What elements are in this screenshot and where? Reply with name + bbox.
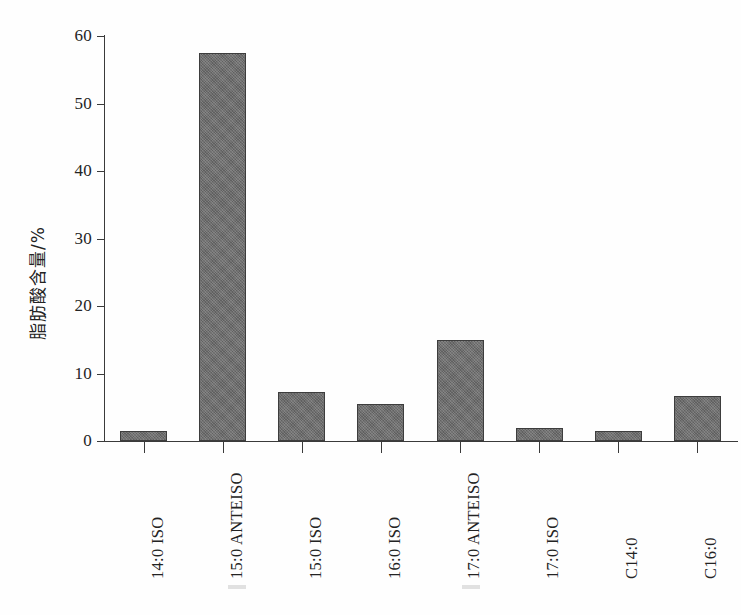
y-axis-tick-mark <box>97 239 105 240</box>
x-axis-category-label: 15:0 ANTEISO <box>229 472 246 579</box>
x-axis-tick-mark <box>460 442 461 453</box>
bar <box>278 392 325 441</box>
x-axis-category-label: 17:0 ISO <box>545 517 562 579</box>
fatty-acid-bar-chart-figure: 脂肪酸含量/% 0102030405060 14:0 ISO15:0 ANTEI… <box>0 0 741 615</box>
x-axis-line <box>104 441 738 442</box>
x-axis-category-label: C14:0 <box>624 537 641 579</box>
bar <box>199 53 246 441</box>
x-axis-category-label: 15:0 ISO <box>308 517 325 579</box>
bar <box>437 340 484 441</box>
scan-artifact <box>462 585 480 589</box>
y-axis-tick-mark <box>97 374 105 375</box>
bar <box>357 404 404 441</box>
y-axis-tick-mark <box>97 171 105 172</box>
y-axis-tick-label: 50 <box>52 95 92 112</box>
y-axis-tick-mark <box>97 306 105 307</box>
x-axis-category-label: 17:0 ANTEISO <box>466 472 483 579</box>
bar <box>674 396 721 441</box>
y-axis-tick-label: 10 <box>52 365 92 382</box>
y-axis-tick-label: 0 <box>52 432 92 449</box>
x-axis-category-label: 14:0 ISO <box>150 517 167 579</box>
bar <box>120 431 167 441</box>
y-axis-tick-label: 40 <box>52 162 92 179</box>
x-axis-tick-mark <box>618 442 619 453</box>
y-axis-title: 脂肪酸含量/% <box>30 226 47 340</box>
bar <box>516 428 563 441</box>
y-axis-tick-mark <box>97 441 105 442</box>
x-axis-category-label: 16:0 ISO <box>387 517 404 579</box>
y-axis-tick-mark <box>97 36 105 37</box>
scan-artifact <box>228 585 246 589</box>
x-axis-tick-mark <box>302 442 303 453</box>
y-axis-tick-label: 30 <box>52 230 92 247</box>
x-axis-tick-mark <box>381 442 382 453</box>
y-axis-tick-label: 60 <box>52 27 92 44</box>
x-axis-tick-mark <box>144 442 145 453</box>
x-axis-tick-mark <box>539 442 540 453</box>
y-axis-tick-mark <box>97 104 105 105</box>
bar <box>595 431 642 441</box>
x-axis-tick-mark <box>697 442 698 453</box>
x-axis-tick-mark <box>223 442 224 453</box>
x-axis-category-label: C16:0 <box>703 537 720 579</box>
y-axis-tick-label: 20 <box>52 297 92 314</box>
